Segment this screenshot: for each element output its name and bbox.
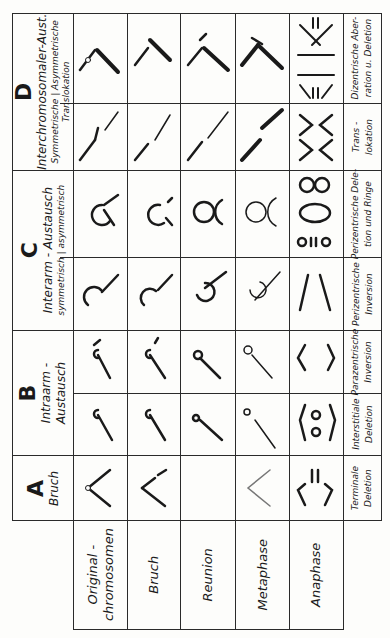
chromosome-drawings (0, 0, 390, 638)
ring-chromosome-icon (92, 195, 276, 226)
chromosome-diagram-icon (80, 34, 282, 72)
dicentric-bridge-icon (298, 18, 334, 98)
